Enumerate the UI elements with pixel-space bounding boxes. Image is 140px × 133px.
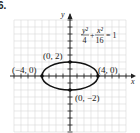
eq-term2-num: x² (96, 26, 104, 35)
vertex-point (40, 74, 44, 78)
vertex-point (68, 88, 72, 92)
equation: y² 4 + x² 16 = 1 (81, 26, 117, 45)
eq-plus: + (90, 31, 95, 40)
point-label-left: (−4, 0) (12, 65, 37, 75)
eq-term1-den: 4 (83, 36, 87, 45)
point-label-right: (4, 0) (98, 65, 118, 75)
vertex-point (68, 60, 72, 64)
ellipse-graph: x y (0, 2) (−4, 0) (4, 0) (0, −2) y² 4 +… (0, 0, 140, 133)
point-label-bottom: (0, −2) (75, 93, 100, 103)
x-axis-label: x (130, 77, 135, 86)
y-axis-label: y (60, 10, 65, 19)
y-axis-arrow-icon (68, 13, 73, 19)
eq-rhs: = 1 (106, 31, 117, 40)
point-label-top: (0, 2) (43, 51, 63, 61)
eq-term1-num: y² (81, 26, 89, 35)
eq-term2-den: 16 (96, 36, 104, 45)
